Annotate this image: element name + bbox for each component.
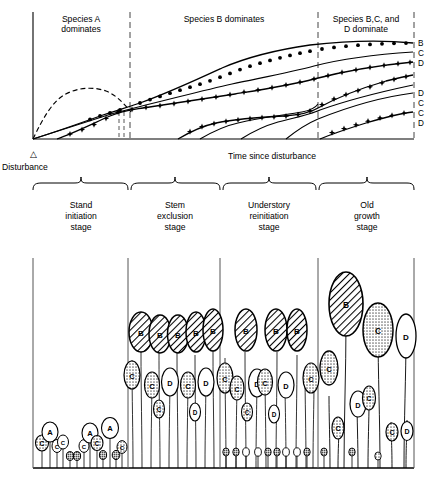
- tree-crown-c: [375, 452, 381, 460]
- tree-crown-d: [66, 452, 73, 461]
- tree-crown-c: [321, 448, 327, 456]
- stage-3-line1: Understory: [248, 200, 291, 210]
- disturbance-label: Disturbance: [2, 162, 48, 172]
- tree-crown-d: [294, 448, 301, 456]
- tree-label-b: B: [193, 329, 199, 338]
- stage-1-line3: stage: [70, 222, 91, 232]
- stage-2-line2: exclusion: [157, 211, 193, 221]
- tree-crown-c: [283, 448, 290, 456]
- understory-reinitiation-trees: B B B C C D C D C C D: [217, 309, 319, 468]
- old-growth-trees: B C D C D C C C D: [320, 272, 416, 468]
- tree-label-b: B: [343, 300, 349, 310]
- tree-label-c: C: [326, 365, 332, 374]
- seedling-row: [223, 448, 310, 468]
- tree-crown-d: [349, 448, 355, 456]
- tree-label-c: C: [234, 386, 239, 393]
- edge-label-lower-3: D: [418, 119, 424, 128]
- edge-label-upper-2: D: [418, 59, 424, 68]
- edge-label-lower-2: C: [418, 109, 424, 118]
- tree-label-d: D: [193, 409, 198, 416]
- zone-label-1-line2: dominates: [61, 24, 101, 34]
- tree-crown-d: [255, 448, 262, 456]
- x-axis-label: Time since disturbance: [228, 151, 316, 161]
- stem-exclusion-trees: B B B B B C C D C D C D: [124, 309, 223, 468]
- curve-species-d-upper: [57, 62, 413, 139]
- tree-crown-d: [304, 448, 310, 456]
- tree-label-d: D: [272, 411, 277, 418]
- tree-crown-c: [233, 448, 239, 456]
- tree-label-c: C: [82, 444, 87, 450]
- tree-label-c: C: [95, 440, 100, 447]
- tree-label-c: C: [262, 379, 268, 388]
- zone-label-2-line1: Species B dominates: [184, 14, 265, 24]
- stage-labels: Stand initiation stage Stem exclusion st…: [65, 200, 380, 232]
- brace-stage-4: [319, 177, 414, 190]
- stage-3-line2: reinitiation: [249, 211, 288, 221]
- zone-label-3-line1: Species B,C, and: [333, 14, 400, 24]
- edge-label-upper-1: C: [418, 49, 424, 58]
- stage-3-line3: stage: [258, 222, 279, 232]
- stage-1-line2: initiation: [65, 211, 97, 221]
- tree-label-b: B: [294, 327, 300, 336]
- tree-label-a: A: [47, 428, 53, 437]
- stand-initiation-trees: C A C C C A C A C: [36, 418, 128, 469]
- tree-label-a: A: [107, 424, 113, 433]
- tree-label-d: D: [283, 382, 289, 391]
- tree-label-b: B: [157, 331, 163, 340]
- tree-label-c: C: [61, 440, 66, 446]
- tree-label-c: C: [129, 372, 135, 381]
- tree-label-b: B: [175, 331, 181, 340]
- tree-label-c: C: [308, 375, 314, 384]
- stage-4-line3: stage: [356, 222, 377, 232]
- curve-species-d-lower: [178, 75, 413, 139]
- tree-label-c: C: [39, 440, 44, 447]
- edge-label-upper-0: B: [418, 39, 424, 48]
- tree-label-c: C: [366, 395, 371, 402]
- tree-crown-d: [223, 448, 229, 456]
- stage-2-line3: stage: [164, 222, 185, 232]
- tree-label-c: C: [245, 409, 250, 416]
- tree-label-c: C: [222, 375, 228, 384]
- disturbance-triangle-icon: △: [30, 149, 37, 159]
- tree-label-d: D: [403, 333, 409, 342]
- tree-label-b: B: [138, 329, 144, 338]
- tree-label-d: D: [167, 379, 173, 388]
- brace-stage-2: [131, 177, 220, 190]
- tree-crown-d: [73, 452, 80, 461]
- tree-label-c: C: [157, 406, 162, 413]
- tree-label-c: C: [185, 382, 191, 391]
- stage-4-line2: growth: [354, 211, 380, 221]
- zone-label-3-line2: D dominate: [344, 24, 388, 34]
- tree-crown-d: [265, 448, 271, 456]
- tree-crown-c: [274, 448, 280, 456]
- brace-stage-1: [33, 177, 128, 190]
- stage-4-line1: Old: [360, 200, 374, 210]
- tree-label-b: B: [273, 327, 279, 336]
- tree-label-d: D: [203, 379, 209, 388]
- brace-stage-3: [223, 177, 316, 190]
- tree-label-d: D: [404, 428, 409, 435]
- tree-label-c: C: [120, 445, 125, 451]
- curve-species-c-lower-1: [200, 104, 318, 139]
- curve-species-d-lower-2: [320, 112, 413, 139]
- zone-label-1-line1: Species A: [62, 14, 100, 24]
- stage-braces: [33, 177, 414, 190]
- figure-svg: Species A dominates Species B dominates …: [0, 0, 433, 479]
- curve-species-c-lower-2: [241, 85, 413, 139]
- tree-label-c: C: [149, 382, 155, 391]
- tree-crown-d: [99, 451, 106, 460]
- tree-label-d: D: [355, 401, 361, 410]
- tree-crown-c: [243, 448, 250, 456]
- forest-stand-development-figure: Species A dominates Species B dominates …: [0, 0, 433, 479]
- edge-label-lower-0: D: [418, 89, 424, 98]
- stage-2-line1: Stem: [165, 200, 185, 210]
- tree-label-c: C: [335, 425, 340, 432]
- top-chart: Species A dominates Species B dominates …: [2, 12, 424, 172]
- stage-1-line1: Stand: [70, 200, 93, 210]
- tree-label-c: C: [389, 429, 394, 436]
- edge-label-lower-1: C: [418, 99, 424, 108]
- forest-profile-panel: C A C C C A C A C: [33, 258, 416, 468]
- tree-label-b: B: [243, 327, 249, 336]
- tree-label-b: B: [210, 327, 216, 336]
- tree-label-a: A: [87, 429, 93, 438]
